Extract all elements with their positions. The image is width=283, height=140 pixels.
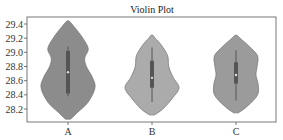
median-marker (235, 74, 237, 76)
y-tick-label: 29.4 (6, 19, 24, 30)
x-tick-label: C (233, 126, 240, 137)
chart-title: Violin Plot (130, 4, 174, 15)
x-axis: ABC (64, 122, 239, 137)
median-marker (67, 71, 69, 73)
x-tick-label: B (149, 126, 156, 137)
y-tick-label: 29.0 (6, 47, 24, 58)
y-tick-label: 28.6 (6, 75, 24, 86)
y-tick-label: 28.8 (6, 61, 24, 72)
x-tick-label: A (64, 126, 72, 137)
iqr-box (234, 62, 238, 83)
y-tick-label: 28.2 (6, 104, 24, 115)
violin-chart: Violin Plot 28.228.428.628.829.029.229.4… (0, 0, 283, 140)
median-marker (151, 77, 153, 79)
iqr-box (150, 61, 154, 88)
y-axis: 28.228.428.628.829.029.229.4 (6, 19, 28, 115)
violins-layer (41, 21, 259, 120)
y-tick-label: 28.4 (6, 89, 24, 100)
chart-canvas: Violin Plot 28.228.428.628.829.029.229.4… (0, 0, 283, 140)
y-tick-label: 29.2 (6, 33, 24, 44)
